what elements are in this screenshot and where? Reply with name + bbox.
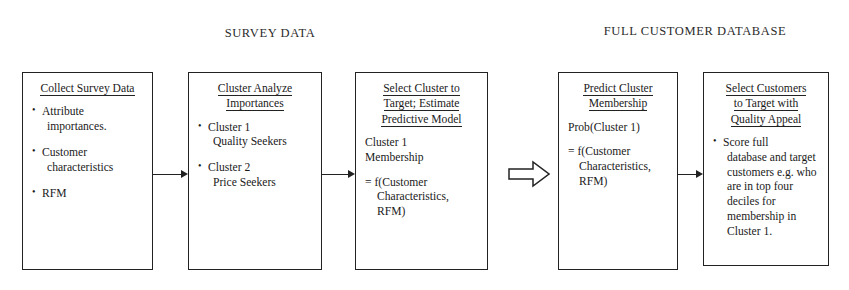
text-line: Prob(Cluster 1) [568,121,640,134]
box-title-line: Quality Appeal [731,113,802,127]
list-item: Cluster 2 Price Seekers [198,161,312,191]
text-line: Characteristics, [568,160,668,175]
bullet-sub: characteristics [42,161,143,176]
text-block: Prob(Cluster 1) [568,121,668,136]
text-line: Cluster 1 [365,136,407,149]
box-title-line: Predictive Model [381,113,461,127]
bullet-sub: importances. [42,120,143,135]
hollow-block-arrow-icon [508,160,550,188]
box-title-line: Membership [589,97,648,111]
box-title-line: Predict Cluster [583,82,652,96]
arrow-select-to-predict [508,160,550,188]
text-line: = f(Customer [365,176,427,189]
text-line: = f(Customer [568,145,630,158]
box-body-select-customers-to-target: Score full database and target customers… [713,136,819,240]
process-box-select-cluster-to-target: Select Cluster to Target; Estimate Predi… [355,72,488,270]
bullet-list: Attribute importances. Customer characte… [32,105,143,201]
bullet-main: Cluster 1 [208,121,250,134]
box-title-line: Target; Estimate [384,97,460,111]
bullet-main: Attribute [42,105,84,118]
bullet-sub: Quality Seekers [208,135,312,150]
list-item: RFM [32,187,143,202]
box-body-predict-cluster-membership: Prob(Cluster 1) = f(Customer Characteris… [568,121,668,190]
section-header-survey-data: SURVEY DATA [180,26,360,41]
text-line: Characteristics, [365,190,478,205]
bullet-sub: database and target customers e.g. who a… [723,151,819,240]
box-title-select-cluster-to-target: Select Cluster to Target; Estimate Predi… [365,81,478,127]
list-item: Score full database and target customers… [713,136,819,240]
flow-diagram-canvas: SURVEY DATA FULL CUSTOMER DATABASE Colle… [0,0,849,290]
arrow-shaft [322,174,348,175]
arrow-head-icon [348,170,355,178]
text-block: = f(Customer Characteristics, RFM) [365,176,478,220]
bullet-list: Score full database and target customers… [713,136,819,240]
box-body-cluster-analyze-importances: Cluster 1 Quality Seekers Cluster 2 Pric… [198,121,312,191]
text-line: RFM) [365,205,478,220]
box-title-line: to Target with [734,97,798,111]
text-line: RFM) [568,175,668,190]
process-box-predict-cluster-membership: Predict Cluster Membership Prob(Cluster … [558,72,678,270]
text-block: = f(Customer Characteristics, RFM) [568,145,668,189]
bullet-sub: Price Seekers [208,176,312,191]
list-item: Cluster 1 Quality Seekers [198,121,312,151]
arrow-head-icon [181,170,188,178]
process-box-select-customers-to-target: Select Customers to Target with Quality … [703,72,829,266]
box-title-line: Importances [226,97,283,111]
arrow-shaft [153,174,181,175]
list-item: Customer characteristics [32,146,143,176]
bullet-list: Cluster 1 Quality Seekers Cluster 2 Pric… [198,121,312,191]
text-block: Cluster 1 Membership [365,136,478,166]
arrow-shaft [678,174,696,175]
box-title-predict-cluster-membership: Predict Cluster Membership [568,81,668,112]
process-box-cluster-analyze-importances: Cluster Analyze Importances Cluster 1 Qu… [188,72,322,270]
box-title-collect-survey-data: Collect Survey Data [32,81,143,96]
box-title-line: Select Customers [726,82,807,96]
box-title-line: Cluster Analyze [218,82,292,96]
text-line: Membership [365,151,424,164]
list-item: Attribute importances. [32,105,143,135]
box-title-select-customers-to-target: Select Customers to Target with Quality … [713,81,819,127]
bullet-main: Cluster 2 [208,161,250,174]
bullet-main: Score full [723,136,768,149]
box-body-collect-survey-data: Attribute importances. Customer characte… [32,105,143,201]
arrow-head-icon [696,170,703,178]
bullet-main: RFM [42,187,67,200]
process-box-collect-survey-data: Collect Survey Data Attribute importance… [22,72,153,270]
box-title-line: Collect Survey Data [40,82,134,96]
box-body-select-cluster-to-target: Cluster 1 Membership = f(Customer Charac… [365,136,478,220]
bullet-main: Customer [42,146,87,159]
box-title-line: Select Cluster to [383,82,460,96]
box-title-cluster-analyze-importances: Cluster Analyze Importances [198,81,312,112]
section-header-full-customer-database: FULL CUSTOMER DATABASE [580,24,810,39]
